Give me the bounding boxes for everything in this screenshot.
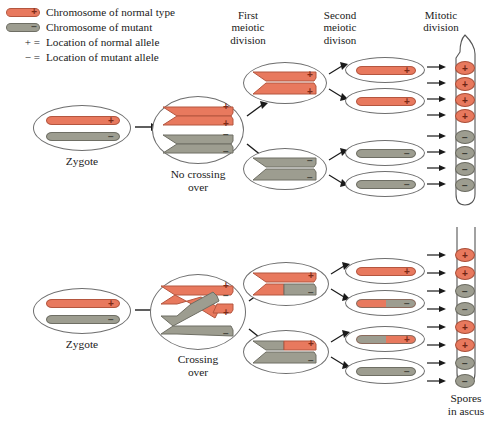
first-division-cell-row1-mutant: − − [243, 148, 327, 190]
plus-icon: + [308, 339, 314, 349]
arrow-to-spore-r2-1 [427, 250, 447, 260]
header-first-meiotic-division: First meiotic division [213, 9, 283, 46]
arrow-to-spore-r2-8 [427, 376, 447, 386]
legend-label-mutant-allele: Location of mutant allele [46, 51, 159, 63]
arrow-to-spore-r2-2 [427, 268, 447, 278]
plus-icon: + [108, 116, 114, 126]
spore-r2-2: + [455, 266, 475, 280]
caption-zygote-row1: Zygote [33, 155, 131, 168]
legend-label-mutant: Chromosome of mutant [46, 21, 152, 33]
spore-r1-6: − [455, 146, 475, 160]
caption-zygote-row2: Zygote [33, 338, 131, 351]
caption-spores-line2: in ascus [428, 405, 494, 418]
caption-crossing-line1: Crossing [145, 353, 251, 366]
plus-symbol: + = [6, 36, 40, 48]
caption-crossing-line2: over [145, 366, 251, 379]
arrow-to-spore-r1-4 [427, 110, 447, 120]
arrow-to-spore-r2-6 [427, 340, 447, 350]
tetrad-cell-crossing-over: + + − − [150, 274, 246, 350]
first-division-cell-row1-normal: + + [243, 62, 327, 104]
plus-icon: + [223, 308, 229, 318]
spore-r1-3: + [455, 93, 475, 107]
arrow-to-spore-r2-7 [427, 358, 447, 368]
second-division-cell-r1-2: + [345, 88, 425, 114]
minus-icon: − [31, 22, 37, 32]
caption-no-crossing-over: No crossing over [145, 168, 251, 193]
header-second-meiotic-line1: Second [304, 9, 376, 21]
plus-icon: + [223, 102, 229, 112]
tetrad-cell-no-crossing-over: + + − − [152, 96, 244, 164]
second-division-cell-r2-4: − [345, 358, 425, 384]
plus-icon: + [404, 97, 410, 107]
spore-r2-5: + [455, 320, 475, 334]
arrow-to-spore-r1-1 [427, 62, 447, 72]
minus-icon: − [108, 132, 114, 142]
spore-r1-2: + [455, 77, 475, 91]
legend: + Chromosome of normal type − Chromosome… [6, 5, 236, 65]
arrow-to-spore-r1-7 [427, 163, 447, 173]
caption-crossing-over: Crossing over [145, 353, 251, 378]
minus-icon: − [223, 329, 229, 339]
arrow-to-spore-r1-6 [427, 147, 447, 157]
minus-icon: − [404, 299, 410, 309]
minus-icon: − [404, 367, 410, 377]
header-first-meiotic-line1: First [213, 9, 283, 21]
minus-icon: − [404, 149, 410, 159]
plus-icon: + [108, 299, 114, 309]
minus-icon: − [223, 147, 229, 157]
first-division-cell-row2-lower: + − [243, 330, 329, 374]
minus-icon: − [307, 173, 313, 183]
legend-item-normal-chromosome: + Chromosome of normal type [6, 5, 236, 19]
spore-r1-4: + [455, 109, 475, 123]
arrow-to-spore-r2-3 [427, 286, 447, 296]
arrow-to-spore-r1-5 [427, 131, 447, 141]
second-division-cell-r1-1: + [345, 57, 425, 83]
caption-spores-line1: Spores [428, 392, 494, 405]
legend-item-mutant-chromosome: − Chromosome of mutant [6, 20, 236, 34]
plus-icon: + [223, 119, 229, 129]
minus-symbol: − = [6, 51, 40, 63]
plus-icon: + [307, 87, 313, 97]
legend-item-normal-allele: + = Location of normal allele [6, 35, 236, 49]
second-division-cell-r2-3: + [345, 326, 425, 352]
arrow-to-spore-r1-8 [427, 179, 447, 189]
plus-icon: + [404, 267, 410, 277]
header-mitotic-line2: division [404, 21, 478, 33]
header-first-meiotic-line3: division [213, 34, 283, 46]
plus-icon: + [404, 66, 410, 76]
zygote-cell-row1: + − [33, 105, 131, 151]
caption-spores-in-ascus: Spores in ascus [428, 392, 494, 417]
minus-icon: − [223, 130, 229, 140]
plus-icon: + [404, 335, 410, 345]
arrow-to-spore-r1-3 [427, 94, 447, 104]
spore-r2-1: + [455, 248, 475, 262]
header-mitotic-line1: Mitotic [404, 9, 478, 21]
spore-r2-7: − [455, 356, 475, 370]
arrow-to-spore-r1-2 [427, 78, 447, 88]
spore-r2-3: − [455, 284, 475, 298]
header-mitotic-division: Mitotic division [404, 9, 478, 34]
arrow-tetrad-to-first-upper-row1 [247, 100, 271, 120]
legend-label-normal: Chromosome of normal type [46, 6, 175, 18]
arrow-to-spore-r2-5 [427, 322, 447, 332]
spore-r1-8: − [455, 178, 475, 192]
first-division-cell-row2-upper: + − [243, 262, 329, 306]
minus-icon: − [308, 288, 314, 298]
minus-icon: − [307, 156, 313, 166]
header-second-meiotic-line2: meiotic [304, 21, 376, 33]
legend-item-mutant-allele: − = Location of mutant allele [6, 50, 236, 64]
chromosome-mutant-swatch: − [6, 23, 40, 32]
zygote-cell-row2: + − [33, 288, 131, 334]
second-division-cell-r1-4: − [345, 171, 425, 197]
second-division-cell-r2-1: + [345, 258, 425, 284]
plus-icon: + [31, 7, 37, 17]
header-second-meiotic-division: Second meiotic divison [304, 9, 376, 46]
spore-r2-6: + [455, 338, 475, 352]
spore-r1-5: − [455, 130, 475, 144]
header-second-meiotic-line3: divison [304, 34, 376, 46]
caption-no-crossing-line2: over [145, 181, 251, 194]
arrow-to-spore-r2-4 [427, 304, 447, 314]
header-first-meiotic-line2: meiotic [213, 21, 283, 33]
spore-r2-8: − [455, 374, 475, 388]
spore-r1-7: − [455, 162, 475, 176]
